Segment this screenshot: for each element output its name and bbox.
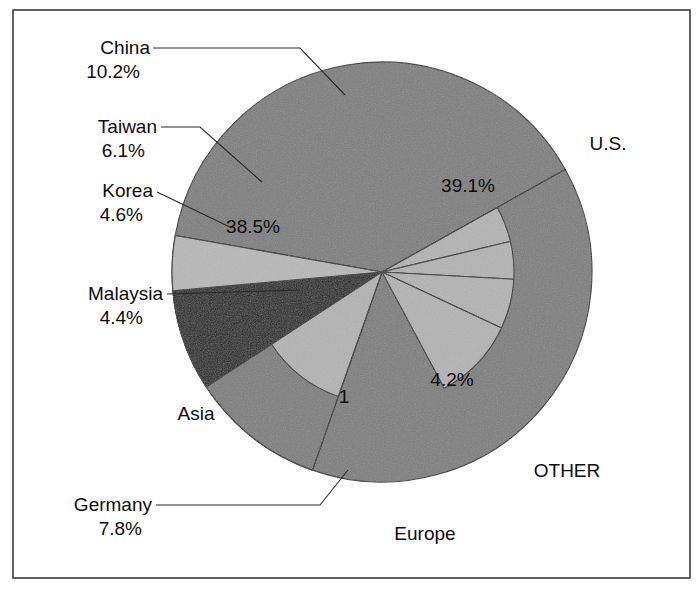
europe-label: Europe [394, 523, 455, 544]
pie-chart-svg: 39.1%38.5%4.2%1 China10.2%Taiwan6.1%Kore… [0, 0, 700, 596]
callout-label-malaysia: Malaysia [88, 283, 163, 304]
annotation-us-percent: 39.1% [441, 175, 495, 196]
callout-percent-korea: 4.6% [100, 204, 143, 225]
pie-slices-group [172, 62, 592, 482]
callout-percent-germany: 7.8% [99, 518, 142, 539]
chart-figure: 39.1%38.5%4.2%1 China10.2%Taiwan6.1%Kore… [0, 0, 700, 596]
annotation-europe-percent-clipped: 1 [339, 386, 350, 407]
callout-label-taiwan: Taiwan [98, 116, 157, 137]
callout-label-korea: Korea [102, 180, 153, 201]
annotation-other-percent: 4.2% [430, 369, 473, 390]
other-label: OTHER [534, 460, 601, 481]
callout-percent-china: 10.2% [86, 61, 140, 82]
callout-percent-taiwan: 6.1% [102, 140, 145, 161]
annotation-asia-percent: 38.5% [226, 216, 280, 237]
callout-label-germany: Germany [74, 494, 153, 515]
callout-label-china: China [100, 37, 150, 58]
asia-label: Asia [178, 403, 215, 424]
us-label: U.S. [590, 133, 627, 154]
callout-percent-malaysia: 4.4% [100, 307, 143, 328]
